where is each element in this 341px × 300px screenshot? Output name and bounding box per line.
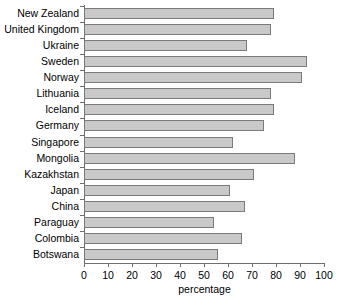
- bar: [84, 169, 254, 180]
- bar-row: [84, 167, 324, 182]
- x-axis-tick: [228, 263, 229, 267]
- y-axis-tick: [80, 247, 84, 248]
- bar-row: [84, 118, 324, 133]
- bar-row: [84, 231, 324, 246]
- category-label: Paraguay: [1, 217, 79, 228]
- y-axis-tick: [80, 118, 84, 119]
- y-axis-tick: [80, 6, 84, 7]
- category-label: Germany: [1, 120, 79, 131]
- x-axis-tick: [180, 263, 181, 267]
- bar-row: [84, 70, 324, 85]
- category-axis-labels: New ZealandUnited KingdomUkraineSwedenNo…: [0, 6, 79, 263]
- y-axis-tick: [80, 215, 84, 216]
- bar-row: [84, 54, 324, 69]
- category-label: New Zealand: [1, 8, 79, 19]
- bar: [84, 249, 218, 260]
- x-axis-tick: [324, 263, 325, 267]
- bar-chart: New ZealandUnited KingdomUkraineSwedenNo…: [0, 0, 341, 300]
- y-axis-tick: [80, 38, 84, 39]
- bar: [84, 104, 274, 115]
- y-axis-tick: [80, 86, 84, 87]
- bar: [84, 137, 233, 148]
- y-axis-tick: [80, 231, 84, 232]
- y-axis-tick: [80, 167, 84, 168]
- y-axis-tick: [80, 22, 84, 23]
- y-axis-tick: [80, 102, 84, 103]
- bar: [84, 24, 271, 35]
- x-axis-tick: [204, 263, 205, 267]
- bar: [84, 153, 295, 164]
- bar-row: [84, 247, 324, 262]
- bar-row: [84, 102, 324, 117]
- category-label: Iceland: [1, 104, 79, 115]
- bar-row: [84, 135, 324, 150]
- category-label: United Kingdom: [1, 24, 79, 35]
- x-axis-tick-label: 100: [309, 269, 339, 281]
- category-label: Ukraine: [1, 40, 79, 51]
- y-axis-tick: [80, 151, 84, 152]
- bar: [84, 201, 245, 212]
- bar: [84, 88, 271, 99]
- x-axis-tick: [276, 263, 277, 267]
- bar: [84, 217, 214, 228]
- y-axis-tick: [80, 135, 84, 136]
- bar-row: [84, 199, 324, 214]
- bar: [84, 56, 307, 67]
- bar-row: [84, 151, 324, 166]
- bar: [84, 185, 230, 196]
- category-label: China: [1, 201, 79, 212]
- bar-row: [84, 86, 324, 101]
- x-axis-tick: [132, 263, 133, 267]
- category-label: Botswana: [1, 249, 79, 260]
- y-axis-tick: [80, 70, 84, 71]
- bar-row: [84, 6, 324, 21]
- bar-row: [84, 183, 324, 198]
- bar: [84, 233, 242, 244]
- y-axis-tick: [80, 199, 84, 200]
- bar-row: [84, 38, 324, 53]
- category-label: Mongolia: [1, 153, 79, 164]
- x-axis-tick: [108, 263, 109, 267]
- x-axis-tick: [252, 263, 253, 267]
- category-label: Colombia: [1, 233, 79, 244]
- x-axis-tick: [300, 263, 301, 267]
- bar: [84, 8, 274, 19]
- category-label: Lithuania: [1, 88, 79, 99]
- bar: [84, 40, 247, 51]
- category-label: Sweden: [1, 56, 79, 67]
- plot-area: [84, 6, 324, 263]
- bar: [84, 120, 264, 131]
- category-label: Norway: [1, 72, 79, 83]
- category-label: Japan: [1, 185, 79, 196]
- y-axis-tick: [80, 183, 84, 184]
- x-axis-tick: [156, 263, 157, 267]
- category-label: Kazakhstan: [1, 169, 79, 180]
- category-label: Singapore: [1, 137, 79, 148]
- bar-row: [84, 22, 324, 37]
- bar-row: [84, 215, 324, 230]
- bar: [84, 72, 302, 83]
- x-axis-tick: [84, 263, 85, 267]
- x-axis-title: percentage: [84, 283, 325, 295]
- y-axis-tick: [80, 54, 84, 55]
